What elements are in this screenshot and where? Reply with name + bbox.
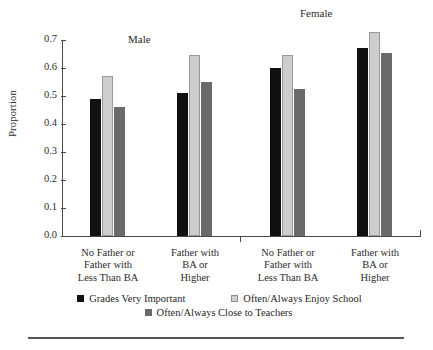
legend-row-primary: Grades Very ImportantOften/Always Enjoy … [0,293,433,304]
y-axis-tick-label: 0.2 [44,173,57,184]
legend-item-label: Often/Always Enjoy School [243,293,361,304]
y-axis-tick-label: 0.5 [44,89,57,100]
x-axis-tick-label-line: Father with [321,247,429,259]
panel-title-female: Female [300,7,332,19]
x-axis-tick-label-line: Father with [141,247,249,259]
x-axis-tick-label: Father withBA orHigher [141,247,249,284]
legend-item[interactable]: Often/Always Enjoy School [231,293,361,304]
x-axis-tick-label-line: Higher [321,272,429,284]
y-axis-tick-label: 0.7 [44,33,57,44]
bar [381,53,392,236]
bar [369,32,380,236]
y-axis-tick-label: 0.4 [44,117,57,128]
legend-item[interactable]: Grades Very Important [77,293,185,304]
legend: Grades Very ImportantOften/Always Enjoy … [0,293,433,318]
y-axis-tick-label: 0.3 [44,145,57,156]
bar [270,68,281,236]
panel-divider-tick [240,236,241,242]
legend-swatch-icon [77,295,84,302]
x-axis-tick-label-line: BA or [321,259,429,271]
x-axis-tick-label-line: Higher [141,272,249,284]
y-axis-tick-label: 0.6 [44,61,57,72]
y-axis-tick-label: 0.0 [44,229,57,240]
bar [282,55,293,236]
bar-group [90,40,126,236]
legend-item-label: Grades Very Important [89,293,185,304]
y-axis-label: Proportion [7,74,18,154]
legend-row-secondary: Often/Always Close to Teachers [0,307,433,318]
legend-item[interactable]: Often/Always Close to Teachers [145,307,293,318]
plot-area [63,40,421,236]
bar [114,107,125,236]
bar-chart: Male Female Proportion 0.00.10.20.30.40.… [0,0,433,350]
bar [189,55,200,236]
bar [90,99,101,236]
bar [102,76,113,236]
bar-group [177,40,213,236]
legend-swatch-icon [145,309,152,316]
bar-group [357,40,393,236]
legend-item-label: Often/Always Close to Teachers [157,307,293,318]
bar-group [270,40,306,236]
bottom-rule-divider [28,337,404,339]
legend-swatch-icon [231,295,238,302]
bar [357,48,368,236]
bar [177,93,188,236]
bar [294,89,305,236]
x-axis-line [62,236,421,237]
x-axis-tick-label-line: BA or [141,259,249,271]
y-axis-tick-label: 0.1 [44,201,57,212]
x-axis-tick-label: Father withBA orHigher [321,247,429,284]
bar [201,82,212,236]
